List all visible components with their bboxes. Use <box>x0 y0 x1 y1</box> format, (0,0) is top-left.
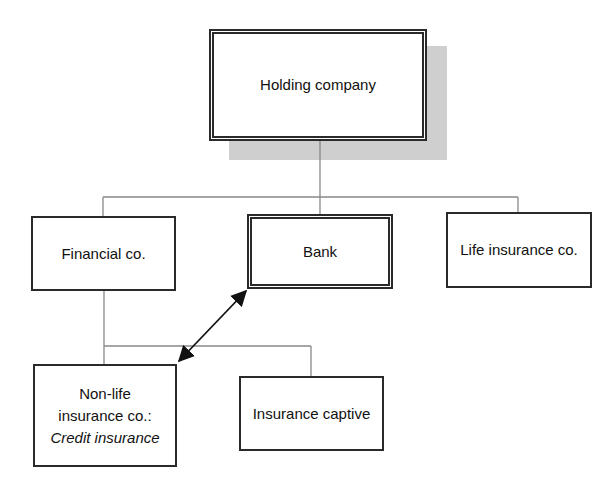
node-label-line1: Non-life <box>79 383 131 405</box>
node-insurance-captive: Insurance captive <box>239 376 384 451</box>
node-non-life-insurance-co: Non-life insurance co.: Credit insurance <box>33 364 177 467</box>
node-label: Insurance captive <box>253 403 371 425</box>
node-label-line3: Credit insurance <box>50 427 159 449</box>
node-label: Financial co. <box>61 243 145 265</box>
node-financial-co: Financial co. <box>31 216 176 291</box>
node-life-insurance-co: Life insurance co. <box>446 212 592 288</box>
bidirectional-arrow <box>179 291 246 361</box>
node-bank: Bank <box>247 214 393 289</box>
node-label: Bank <box>303 241 337 263</box>
node-holding-company: Holding company <box>209 29 427 141</box>
node-label: Life insurance co. <box>460 239 578 261</box>
org-diagram: Holding company Financial co. Bank Life … <box>0 0 615 493</box>
node-label-line2: insurance co.: <box>58 405 151 427</box>
node-label: Holding company <box>260 74 376 96</box>
